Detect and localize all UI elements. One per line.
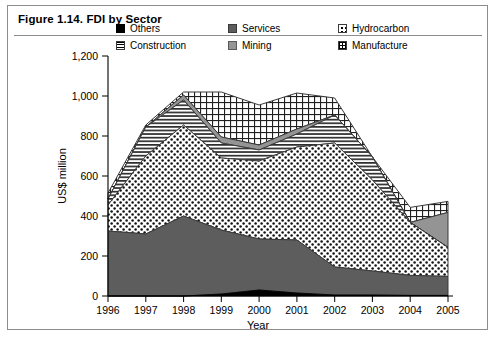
legend-item-mining: Mining xyxy=(228,37,338,54)
solid-black-swatch-icon xyxy=(116,24,125,33)
y-tick-label: 400 xyxy=(80,210,98,222)
y-axis-ticks xyxy=(102,56,108,296)
fdi-by-sector-chart: 0 200 400 600 800 1,000 1,200 1996 1997 xyxy=(8,36,487,330)
x-tick-label: 2001 xyxy=(285,304,309,316)
chart-legend: Others Services Hydrocarbon Construction… xyxy=(116,20,446,54)
x-tick-label: 1996 xyxy=(96,304,120,316)
legend-item-construction: Construction xyxy=(116,37,228,54)
stacked-area-chart-svg: 0 200 400 600 800 1,000 1,200 1996 1997 xyxy=(8,36,487,330)
legend-item-manufacture: Manufacture xyxy=(338,37,446,54)
horizontal-lines-swatch-icon xyxy=(116,41,125,50)
x-tick-label: 2003 xyxy=(361,304,385,316)
x-tick-label: 2002 xyxy=(323,304,347,316)
y-axis-title: US$ million xyxy=(56,148,68,204)
legend-item-hydrocarbon: Hydrocarbon xyxy=(338,20,446,37)
y-tick-label: 200 xyxy=(80,250,98,262)
legend-label: Services xyxy=(242,24,280,34)
legend-item-others: Others xyxy=(116,20,228,37)
y-tick-label: 1,200 xyxy=(72,50,98,62)
x-tick-label: 1997 xyxy=(134,304,158,316)
legend-label: Mining xyxy=(242,41,271,51)
y-tick-label: 0 xyxy=(92,290,98,302)
dotted-pattern-swatch-icon xyxy=(338,24,347,33)
x-axis-title: Year xyxy=(247,319,270,330)
x-axis-ticks xyxy=(108,296,448,302)
x-tick-label: 2000 xyxy=(247,304,271,316)
legend-item-services: Services xyxy=(228,20,338,37)
solid-gray-swatch-icon xyxy=(228,41,237,50)
x-tick-label: 1999 xyxy=(210,304,234,316)
y-tick-label: 1,000 xyxy=(72,90,98,102)
grid-pattern-swatch-icon xyxy=(338,41,347,50)
x-tick-label: 1998 xyxy=(172,304,196,316)
figure-frame: Figure 1.14. FDI by Sector xyxy=(7,5,488,330)
legend-label: Manufacture xyxy=(352,41,408,51)
legend-label: Others xyxy=(130,24,160,34)
legend-label: Construction xyxy=(130,41,186,51)
y-tick-label: 600 xyxy=(80,170,98,182)
y-tick-label: 800 xyxy=(80,130,98,142)
legend-label: Hydrocarbon xyxy=(352,24,409,34)
x-tick-label: 2004 xyxy=(399,304,423,316)
x-tick-label: 2005 xyxy=(436,304,460,316)
solid-dark-gray-swatch-icon xyxy=(228,24,237,33)
